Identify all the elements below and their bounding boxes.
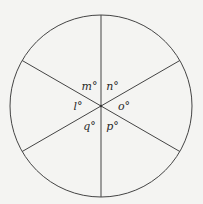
- angle-l-label: l°: [73, 100, 82, 113]
- angle-m-label: m°: [82, 80, 98, 93]
- circle-diagram: m°n°o°p°q°l°: [0, 0, 203, 204]
- center-point: [100, 105, 103, 108]
- angle-p-label: p°: [106, 120, 119, 133]
- angle-q-label: q°: [83, 120, 96, 133]
- angle-n-label: n°: [106, 80, 119, 93]
- angle-o-label: o°: [118, 100, 130, 113]
